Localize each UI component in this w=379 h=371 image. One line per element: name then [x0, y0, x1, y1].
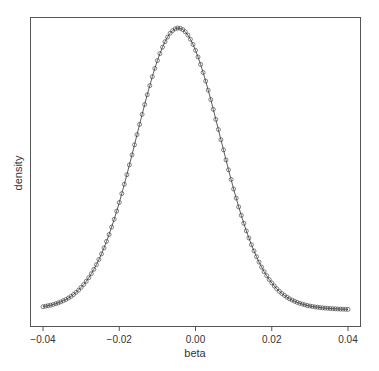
- x-tick-label: 0.04: [338, 334, 358, 345]
- plot-frame: [31, 18, 361, 327]
- density-plot: −0.04−0.020.000.020.04 beta density: [0, 0, 379, 371]
- x-axis: −0.04−0.020.000.020.04: [30, 327, 358, 346]
- x-tick-label: 0.00: [186, 334, 206, 345]
- density-series: [41, 26, 350, 311]
- x-tick-label: −0.04: [30, 334, 56, 345]
- x-axis-label: beta: [184, 347, 206, 359]
- density-line: [43, 28, 348, 309]
- x-tick-label: −0.02: [107, 334, 133, 345]
- y-axis-label: density: [12, 155, 24, 190]
- x-tick-label: 0.02: [262, 334, 282, 345]
